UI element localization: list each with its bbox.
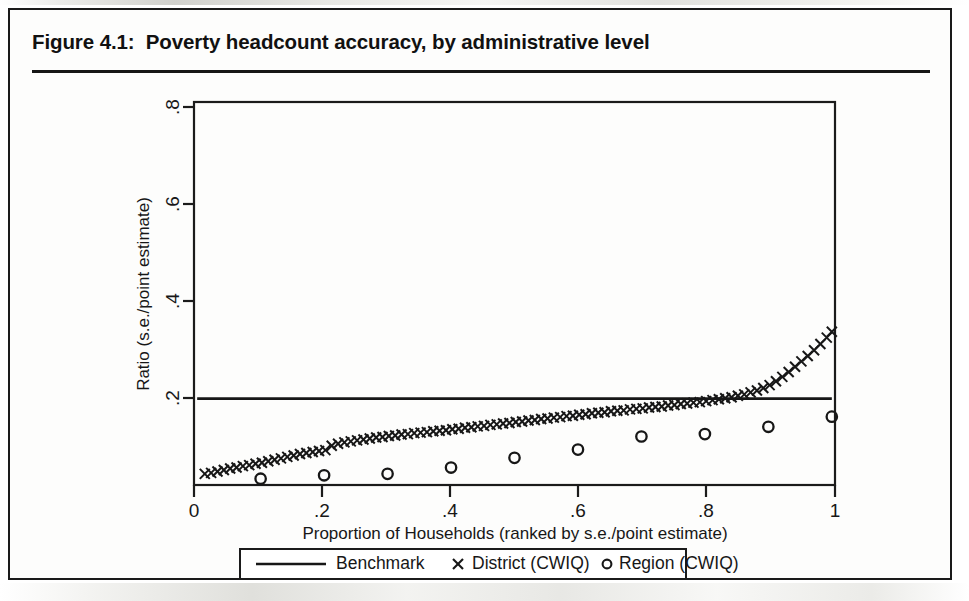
y-tick-label-0.2: .2 — [162, 390, 183, 406]
y-axis-ticks — [183, 107, 194, 398]
district-marker — [777, 372, 787, 382]
y-tick-label-0.6: .6 — [162, 196, 183, 212]
district-marker — [320, 445, 330, 455]
region-marker — [319, 470, 329, 480]
region-marker — [573, 444, 583, 454]
x-tick-label-0.2: .2 — [314, 500, 330, 521]
scan-artifact-bottom-edge — [0, 583, 969, 601]
region-marker — [509, 453, 519, 463]
scan-artifact-top-edge — [0, 0, 969, 5]
x-tick-label-0.4: .4 — [442, 500, 458, 521]
poverty-headcount-accuracy-chart: .8 .6 .4 .2 Ratio (s.e./point estimate) … — [10, 10, 954, 582]
figure-container: Figure 4.1: Poverty headcount accuracy, … — [8, 8, 952, 580]
y-tick-label-0.8: .8 — [162, 99, 183, 115]
y-axis-title: Ratio (s.e./point estimate) — [134, 197, 153, 391]
region-marker — [255, 473, 265, 483]
chart-legend: Benchmark District (CWIQ) Region (CWIQ) — [240, 549, 739, 579]
region-marker — [636, 431, 646, 441]
region-marker — [446, 462, 456, 472]
legend-label-district: District (CWIQ) — [472, 553, 590, 573]
x-axis-tick-labels: 0 .2 .4 .6 .8 1 — [189, 500, 841, 521]
x-axis-title: Proportion of Households (ranked by s.e.… — [302, 524, 727, 543]
x-tick-label-0.8: .8 — [698, 500, 714, 521]
x-tick-label-0: 0 — [189, 500, 200, 521]
legend-item-district[interactable]: District (CWIQ) — [453, 553, 590, 573]
x-axis-ticks — [194, 485, 835, 497]
region-marker — [700, 429, 710, 439]
region-marker — [763, 422, 773, 432]
y-tick-label-0.4: .4 — [162, 293, 183, 309]
x-tick-label-0.6: .6 — [570, 500, 586, 521]
x-tick-label-1: 1 — [830, 500, 841, 521]
legend-label-region: Region (CWIQ) — [619, 553, 739, 573]
region-marker — [382, 469, 392, 479]
legend-label-benchmark: Benchmark — [336, 553, 425, 573]
chart-area: .8 .6 .4 .2 Ratio (s.e./point estimate) … — [10, 10, 954, 582]
legend-item-region[interactable]: Region (CWIQ) — [603, 553, 739, 573]
y-axis-tick-labels: .8 .6 .4 .2 — [162, 99, 183, 406]
